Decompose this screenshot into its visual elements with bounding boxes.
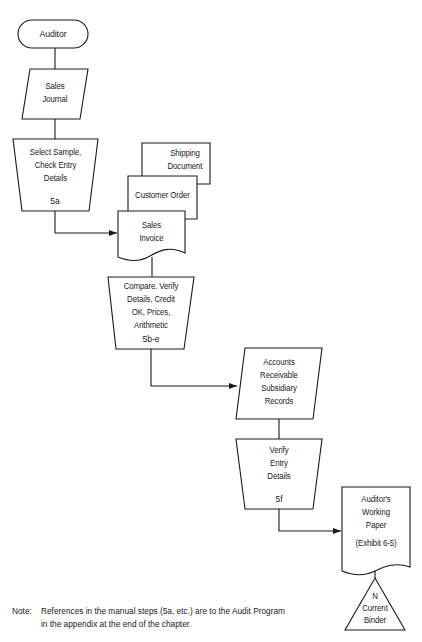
label-line: Accounts	[243, 356, 315, 369]
label-line: Compare. Verify	[111, 280, 190, 293]
label-line: Auditor's	[345, 493, 408, 506]
label-line: Details	[239, 470, 318, 483]
step-ref-5a: 5a	[40, 196, 70, 206]
note-line-1: References in the manual steps (5a, etc.…	[41, 606, 285, 616]
label-line: Document	[162, 160, 208, 173]
label-line: Details, Credit	[111, 293, 190, 306]
current-binder-label: N Current Binder	[347, 590, 402, 626]
shipping-document-label: Shipping Document	[162, 147, 208, 173]
label-line: Binder	[347, 614, 402, 626]
working-paper-label: Auditor's Working Paper (Exhibit 6-5)	[345, 493, 408, 550]
verify-entry-label: Verify Entry Details	[239, 444, 318, 483]
label-line: Details	[16, 172, 94, 185]
connector-arrow	[151, 349, 237, 386]
label-line: Arithmetic	[111, 319, 190, 332]
note-line-2: in the appendix at the end of the chapte…	[12, 618, 285, 631]
label-line: Receivable	[243, 369, 315, 382]
label-line: Working	[345, 506, 408, 519]
step-ref-5f: 5f	[264, 494, 294, 504]
label-line: Check Entry	[16, 159, 94, 172]
compare-verify-label: Compare. Verify Details, Credit OK, Pric…	[111, 280, 190, 332]
label-line: Customer Order	[131, 189, 194, 202]
auditor-label: Auditor	[21, 27, 85, 40]
label-line: Current	[347, 602, 402, 614]
label-line: Entry	[239, 457, 318, 470]
label-line: N	[347, 590, 402, 602]
connector-arrow	[55, 211, 117, 233]
footnote: Note:References in the manual steps (5a,…	[12, 605, 285, 631]
label-line: Shipping	[162, 147, 208, 160]
label-line: Journal	[27, 93, 82, 106]
label-line: Paper	[345, 519, 408, 532]
label-line: OK, Prices,	[111, 306, 190, 319]
label-line: Subsidiary	[243, 382, 315, 395]
label-line: Sales	[121, 219, 183, 232]
ar-records-label: Accounts Receivable Subsidiary Records	[243, 356, 315, 408]
step-ref-5b-e: 5b-e	[131, 334, 171, 344]
select-sample-label: Select Sample, Check Entry Details	[16, 146, 94, 185]
label-line: Select Sample,	[16, 146, 94, 159]
customer-order-label: Customer Order	[131, 189, 194, 202]
label-line: Records	[243, 395, 315, 408]
note-prefix: Note:	[12, 605, 41, 618]
connector-arrow	[279, 509, 341, 531]
sales-journal-label: Sales Journal	[27, 80, 82, 106]
label-line: Verify	[239, 444, 318, 457]
label-line: Invoice	[121, 232, 183, 245]
label-line: (Exhibit 6-5)	[345, 537, 408, 550]
label-line: Sales	[27, 80, 82, 93]
sales-invoice-label: Sales Invoice	[121, 219, 183, 245]
